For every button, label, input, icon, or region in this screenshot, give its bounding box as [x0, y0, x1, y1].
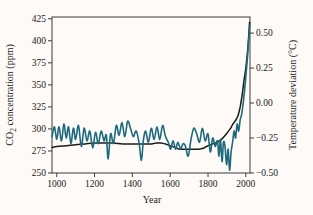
- left-axis-tick-label: 400: [32, 36, 47, 46]
- left-axis-tick-label: 275: [32, 146, 47, 156]
- x-axis-tick-label: 1600: [161, 179, 180, 189]
- right-axis-tick-label: −0.50: [256, 168, 278, 178]
- right-axis-tick-label: 0.50: [256, 28, 273, 38]
- temperature-line: [52, 26, 250, 170]
- left-axis-tick-label: 325: [32, 102, 47, 112]
- right-axis-tick-label: 0.00: [256, 98, 273, 108]
- left-axis-tick-label: 375: [32, 58, 47, 68]
- left-axis-tick-label: 425: [32, 14, 47, 24]
- x-axis-tick-label: 1000: [47, 179, 66, 189]
- x-axis-tick-label: 2000: [236, 179, 255, 189]
- x-axis-tick-label: 1800: [199, 179, 218, 189]
- left-axis-tick-label: 300: [32, 124, 47, 134]
- x-axis-tick-label: 1400: [123, 179, 142, 189]
- x-axis-tick-label: 1200: [85, 179, 104, 189]
- right-axis-title: Temperature deviation (°C): [287, 40, 299, 150]
- right-axis-tick-label: −0.25: [256, 133, 278, 143]
- left-axis-tick-label: 250: [32, 168, 47, 178]
- x-axis-title: Year: [143, 194, 162, 205]
- left-axis-title: CO2 concentration (ppm): [4, 44, 18, 146]
- left-axis-tick-label: 350: [32, 80, 47, 90]
- co2-temperature-chart: 2502753003253503754004250.500.250.00−0.2…: [0, 0, 313, 215]
- climate-chart-figure: 2502753003253503754004250.500.250.00−0.2…: [0, 0, 313, 215]
- right-axis-tick-label: 0.25: [256, 63, 273, 73]
